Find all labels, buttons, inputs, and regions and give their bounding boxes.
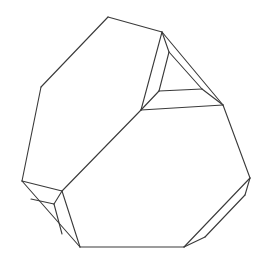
edge-triangle-right	[169, 52, 202, 89]
edge-triangle-bevel-top	[162, 32, 169, 52]
edge-lower-left-inner-top	[31, 199, 54, 204]
edge-outline-top	[108, 17, 162, 32]
edge-outline-top-right	[162, 32, 223, 105]
edge-outline-bottom-right	[184, 178, 250, 247]
edge-outline-bottom-left	[22, 181, 80, 247]
edge-lower-right-inner-3	[184, 237, 205, 247]
edge-triangle-bevel-right	[202, 89, 223, 105]
edge-lower-left-top	[22, 181, 62, 191]
edge-ridge-cross	[141, 105, 223, 110]
edge-lower-left-inner-link	[54, 191, 62, 204]
edge-triangle-bottom	[159, 89, 202, 91]
crystal-drawing	[0, 0, 258, 258]
edge-outline-top-left	[41, 17, 108, 87]
edge-lower-right-inner-2	[205, 195, 245, 237]
edge-lower-left-front	[62, 191, 80, 247]
edge-triangle-left	[159, 52, 169, 91]
edge-ridge-main	[62, 110, 141, 191]
edge-outline-left	[22, 87, 41, 181]
edge-outline-right	[223, 105, 250, 178]
crystal-edges	[22, 17, 250, 247]
